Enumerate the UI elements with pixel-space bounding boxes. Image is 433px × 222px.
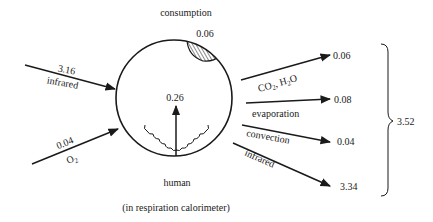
output-evaporation-label: evaporation bbox=[252, 108, 299, 119]
subject-label: human bbox=[163, 177, 190, 188]
consumption-label: consumption bbox=[160, 7, 212, 18]
output-infrared-label: infrared bbox=[243, 147, 276, 170]
output-infrared-value: 3.34 bbox=[340, 181, 358, 192]
total-output-value: 3.52 bbox=[397, 116, 415, 127]
output-convection-value: 0.04 bbox=[337, 136, 355, 147]
internal-value: 0.26 bbox=[166, 92, 184, 103]
output-co2-value: 0.06 bbox=[333, 50, 351, 61]
output-convection-label: convection bbox=[246, 127, 291, 145]
output-arrow-evaporation bbox=[246, 99, 330, 103]
consumption-value: 0.06 bbox=[196, 28, 214, 39]
output-evaporation-value: 0.08 bbox=[334, 94, 352, 105]
energy-balance-diagram: consumption 0.06 0.26 3.16 infrared 0.04… bbox=[0, 0, 433, 222]
output-arrow-co2-h2o bbox=[241, 55, 330, 80]
output-co2-label: CO2, H2O bbox=[257, 72, 299, 96]
context-label: (in respiration calorimeter) bbox=[122, 202, 230, 214]
input-infrared-label: infrared bbox=[46, 74, 79, 90]
total-brace bbox=[381, 44, 393, 196]
input-o2-value: 0.04 bbox=[55, 134, 75, 151]
input-o2-label: O2 bbox=[65, 151, 80, 167]
